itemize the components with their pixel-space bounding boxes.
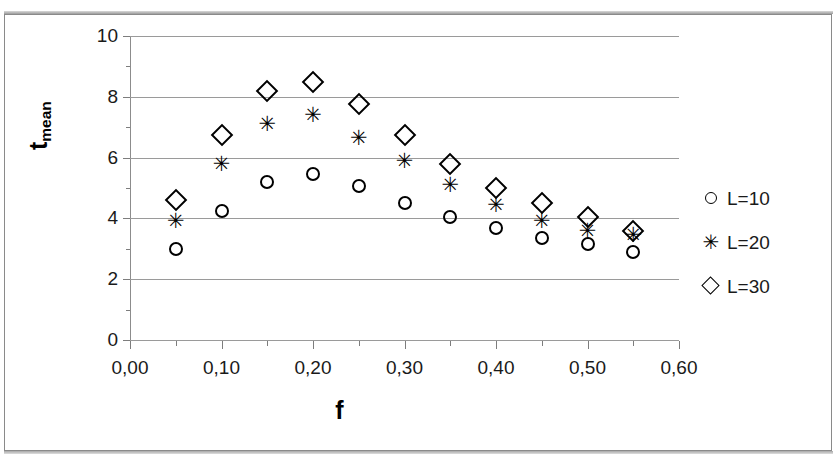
- gridline-y: [130, 279, 679, 280]
- y-axis-tick-labels: 0246810: [60, 0, 118, 466]
- y-axis-tick-label: 0: [78, 330, 118, 349]
- marker-circle-icon: [169, 242, 183, 256]
- marker-star-icon: ✳: [702, 231, 720, 253]
- legend-marker: [700, 275, 722, 297]
- x-axis-tick-minor: [450, 341, 451, 346]
- marker-star-icon: ✳: [167, 210, 185, 232]
- y-axis-title: tmean: [26, 101, 51, 150]
- marker-circle-icon: [352, 179, 366, 193]
- x-axis-tick-minor: [176, 341, 177, 346]
- y-axis-tick-label: 8: [78, 87, 118, 106]
- legend: L=10✳L=20L=30: [700, 176, 820, 308]
- y-axis-title-subscript: mean: [37, 101, 54, 142]
- x-axis-tick-label: 0,60: [644, 358, 714, 377]
- y-axis-tick: [123, 279, 130, 280]
- legend-marker: ✳: [700, 231, 722, 253]
- marker-circle-icon: [306, 167, 320, 181]
- marker-star-icon: ✳: [304, 104, 322, 126]
- x-axis-tick: [496, 341, 497, 349]
- x-axis-tick-label: 0,10: [187, 358, 257, 377]
- y-axis-tick-label: 10: [78, 26, 118, 45]
- marker-circle-icon: [443, 210, 457, 224]
- marker-star-icon: ✳: [350, 127, 368, 149]
- x-axis-tick-minor: [359, 341, 360, 346]
- marker-circle-icon: [705, 192, 717, 204]
- x-axis-tick-minor: [542, 341, 543, 346]
- legend-marker: [700, 187, 722, 209]
- marker-circle-icon: [215, 204, 229, 218]
- legend-item-label: L=10: [727, 189, 770, 208]
- y-axis-tick: [123, 218, 130, 219]
- marker-diamond-icon: [210, 123, 233, 146]
- legend-item: L=30: [700, 264, 820, 308]
- y-axis-tick: [123, 97, 130, 98]
- marker-star-icon: ✳: [441, 174, 459, 196]
- x-axis-tick: [588, 341, 589, 349]
- marker-diamond-icon: [393, 123, 416, 146]
- x-axis-tick-label: 0,30: [370, 358, 440, 377]
- marker-circle-icon: [260, 175, 274, 189]
- legend-item-label: L=30: [727, 277, 770, 296]
- marker-circle-icon: [535, 231, 549, 245]
- x-axis-tick-label: 0,00: [95, 358, 165, 377]
- y-axis-tick: [123, 36, 130, 37]
- x-axis-tick-minor: [633, 341, 634, 346]
- gridline-y: [130, 36, 679, 37]
- legend-item: L=10: [700, 176, 820, 220]
- marker-circle-icon: [398, 196, 412, 210]
- x-axis-tick-label: 0,40: [461, 358, 531, 377]
- y-axis-tick-label: 6: [78, 148, 118, 167]
- x-axis-tick: [222, 341, 223, 349]
- y-axis-tick-label: 2: [78, 269, 118, 288]
- marker-star-icon: ✳: [213, 153, 231, 175]
- legend-item-label: L=20: [727, 233, 770, 252]
- y-axis-tick: [123, 158, 130, 159]
- marker-diamond-icon: [256, 79, 279, 102]
- marker-diamond-icon: [439, 152, 462, 175]
- x-axis-title: f: [0, 398, 679, 423]
- gridline-y: [130, 97, 679, 98]
- y-axis-title-base: t: [24, 142, 52, 150]
- chart-figure: tmean 0246810 ✳✳✳✳✳✳✳✳✳✳✳ 0,000,100,200,…: [0, 0, 839, 466]
- x-axis-tick: [405, 341, 406, 349]
- marker-star-icon: ✳: [258, 113, 276, 135]
- y-axis-tick: [123, 340, 130, 341]
- marker-star-icon: ✳: [396, 150, 414, 172]
- y-axis-tick-label: 4: [78, 208, 118, 227]
- marker-diamond-icon: [701, 276, 719, 294]
- x-axis-tick-label: 0,50: [553, 358, 623, 377]
- x-axis-tick-minor: [267, 341, 268, 346]
- x-axis-tick: [679, 341, 680, 349]
- x-axis-tick: [313, 341, 314, 349]
- marker-circle-icon: [489, 221, 503, 235]
- legend-item: ✳L=20: [700, 220, 820, 264]
- marker-diamond-icon: [302, 70, 325, 93]
- page-frame-bottom-edge: [4, 451, 833, 454]
- x-axis-tick-label: 0,20: [278, 358, 348, 377]
- x-axis-tick: [130, 341, 131, 349]
- marker-diamond-icon: [164, 189, 187, 212]
- plot-area: ✳✳✳✳✳✳✳✳✳✳✳: [130, 36, 679, 340]
